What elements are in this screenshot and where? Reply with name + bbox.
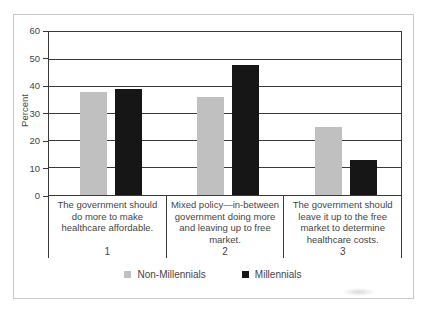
y-axis-tick-label-30: 30 (29, 109, 40, 119)
bar-group-2 (166, 32, 283, 195)
y-axis-tick-label-0: 0 (35, 191, 40, 201)
category-cell-3: The government should leave it up to the… (284, 196, 402, 258)
bar-non-millennials-1 (80, 92, 107, 195)
bar-millennials-3 (350, 160, 377, 195)
legend-swatch-non-millennials (124, 271, 131, 278)
bar-group-3 (284, 32, 401, 195)
bar-group-1 (49, 32, 166, 195)
plot-area (48, 31, 402, 196)
legend-label: Non-Millennials (137, 269, 205, 280)
y-axis-tick-label-20: 20 (29, 136, 40, 146)
legend-item-non-millennials: Non-Millennials (124, 269, 205, 280)
category-cell-2: Mixed policy—in-between government doing… (167, 196, 285, 258)
legend-label: Millennials (255, 269, 302, 280)
y-axis-tick-label-50: 50 (29, 54, 40, 64)
bar-millennials-2 (232, 65, 259, 195)
legend: Non-MillennialsMillennials (13, 269, 413, 280)
y-axis-tick-label-60: 60 (29, 26, 40, 36)
category-number-2: 2 (167, 246, 284, 257)
bar-non-millennials-3 (315, 127, 342, 195)
bar-chart: Percent 0102030405060 The government sho… (0, 0, 431, 314)
y-axis-tick-label-40: 40 (29, 81, 40, 91)
category-number-3: 3 (284, 246, 401, 257)
y-axis-tick-labels: 0102030405060 (13, 31, 44, 196)
y-axis-tick-label-10: 10 (29, 164, 40, 174)
bar-non-millennials-2 (197, 97, 224, 195)
category-cell-1: The government should do more to make he… (49, 196, 167, 258)
legend-swatch-millennials (242, 271, 249, 278)
x-axis-category-table: The government should do more to make he… (48, 196, 402, 258)
legend-item-millennials: Millennials (242, 269, 302, 280)
category-label-2: Mixed policy—in-between government doing… (167, 196, 284, 245)
category-label-1: The government should do more to make he… (49, 196, 166, 234)
category-label-3: The government should leave it up to the… (284, 196, 401, 245)
bar-millennials-1 (115, 89, 142, 195)
scan-artifact (342, 288, 376, 296)
category-number-1: 1 (49, 246, 166, 257)
